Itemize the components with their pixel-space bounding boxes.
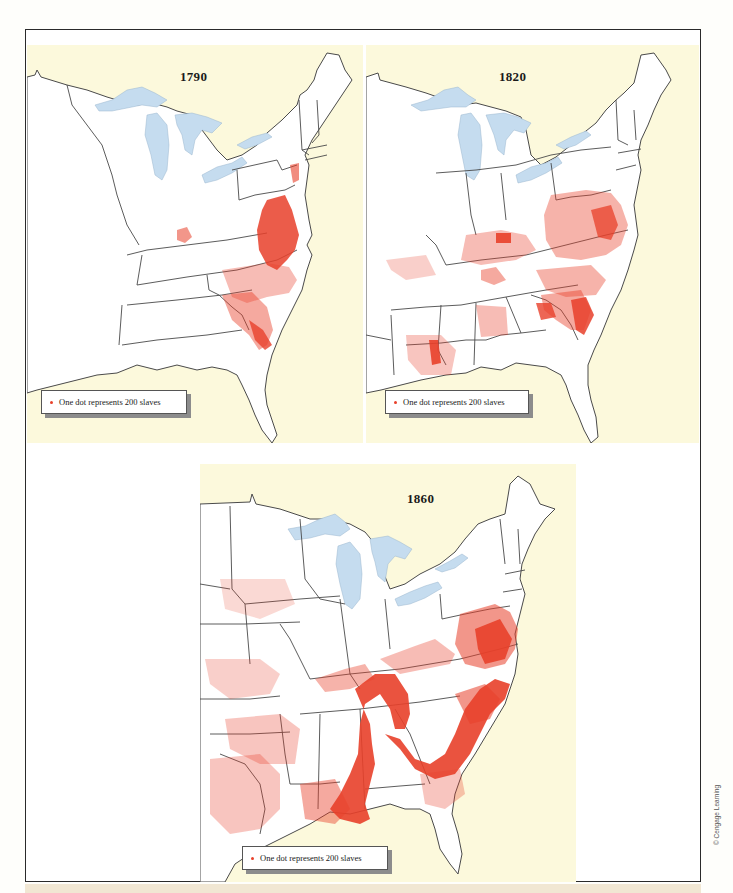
map-legend: One dot represents 200 slaves bbox=[242, 846, 388, 870]
legend-text: One dot represents 200 slaves bbox=[260, 853, 362, 863]
map-legend: One dot represents 200 slaves bbox=[41, 390, 187, 414]
legend-text: One dot represents 200 slaves bbox=[59, 397, 161, 407]
copyright-credit: © Cengage Learning bbox=[713, 785, 720, 845]
map-year-title: 1820 bbox=[499, 69, 526, 85]
map-panel-1790: 1790 One dot represents 200 slaves bbox=[27, 45, 363, 443]
panel-divider bbox=[363, 45, 366, 443]
map-panel-1820: 1820 One dot represents 200 slaves bbox=[366, 45, 699, 443]
map-year-title: 1860 bbox=[407, 491, 434, 507]
map-1820 bbox=[366, 45, 699, 443]
red-dot-icon bbox=[251, 857, 254, 860]
map-1790 bbox=[27, 45, 363, 443]
map-year-title: 1790 bbox=[180, 69, 207, 85]
map-legend: One dot represents 200 slaves bbox=[385, 390, 529, 414]
page-strip bbox=[25, 884, 701, 893]
red-dot-icon bbox=[394, 401, 397, 404]
legend-text: One dot represents 200 slaves bbox=[403, 397, 505, 407]
map-1860 bbox=[200, 464, 576, 882]
red-dot-icon bbox=[50, 401, 53, 404]
map-panel-1860: 1860 One dot represents 200 slaves bbox=[200, 464, 576, 882]
